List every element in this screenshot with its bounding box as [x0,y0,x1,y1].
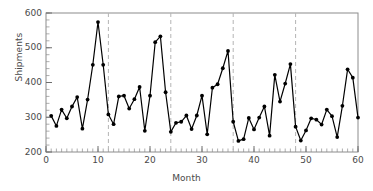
axis-major-ticks [46,13,358,152]
axis-minor-ticks [46,13,358,152]
year-boundary-lines [108,13,295,152]
plot-area [0,0,373,191]
shipments-line-chart: Shipments 600 500 400 300 200 0 10 20 30… [0,0,373,191]
axes-frame [46,13,358,152]
x-axis-label: Month [0,173,373,183]
data-line [51,22,358,141]
